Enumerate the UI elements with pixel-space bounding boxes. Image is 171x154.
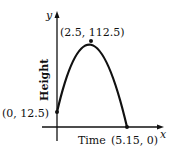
y-axis-symbol: y <box>45 9 53 22</box>
x-axis-title: Time <box>78 134 106 147</box>
peak-point-label: (2.5, 112.5) <box>60 26 125 39</box>
peak-point-marker <box>89 39 93 43</box>
x-axis-symbol: x <box>160 128 167 141</box>
end-point-label: (5.15, 0) <box>111 134 158 147</box>
height-curve <box>57 45 127 127</box>
y-axis-arrow-icon <box>55 11 60 18</box>
height-time-chart: y x (2.5, 112.5) (0, 12.5) Time (5.15, 0… <box>0 0 171 154</box>
chart-canvas: y x (2.5, 112.5) (0, 12.5) Time (5.15, 0… <box>0 0 171 154</box>
start-point-marker <box>55 110 59 114</box>
end-point-marker <box>125 125 129 129</box>
y-axis-title: Height <box>38 58 51 101</box>
start-point-label: (0, 12.5) <box>2 107 49 120</box>
